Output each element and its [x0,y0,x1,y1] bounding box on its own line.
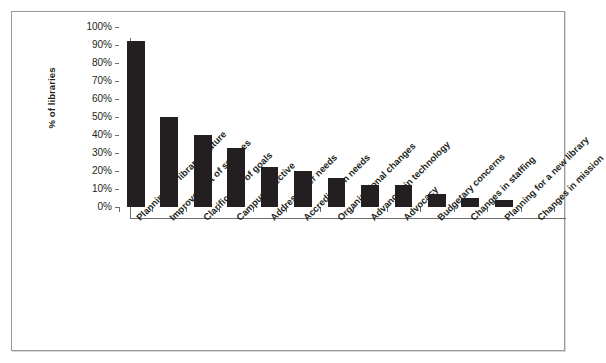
x-axis-label: Changes in mission [535,152,605,222]
chart-frame: % of libraries 100%90%80%70%60%50%40%30%… [11,11,565,351]
x-axis-labels: Planning for library's futureImprovement… [12,12,594,363]
x-axis-label: Campus directive [234,160,297,223]
